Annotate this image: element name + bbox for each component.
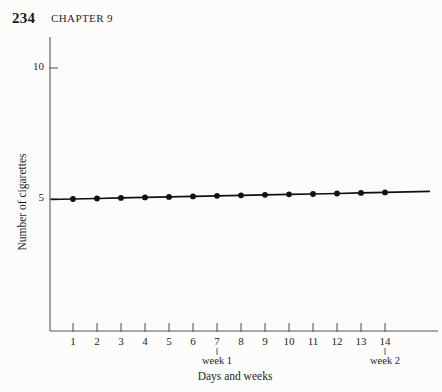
- chart-svg: [0, 0, 442, 392]
- week-annotation: week 2: [370, 355, 400, 366]
- x-tick-label: 11: [308, 335, 319, 347]
- x-tick-label: 7: [214, 335, 220, 347]
- week-tick-marks: [217, 348, 385, 355]
- x-tick-label: 10: [284, 335, 295, 347]
- chart-axes: [50, 37, 438, 331]
- data-point-marker: [358, 190, 364, 196]
- data-point-marker: [310, 191, 316, 197]
- chart-page: 234 CHAPTER 9 510 1234567891011121314 we…: [0, 0, 442, 392]
- x-tick-label: 3: [118, 335, 124, 347]
- data-point-marker: [70, 196, 76, 202]
- x-tick-label: 13: [356, 335, 367, 347]
- x-tick-label: 5: [166, 335, 172, 347]
- data-point-marker: [166, 194, 172, 200]
- data-point-marker: [94, 196, 100, 202]
- x-tick-label: 8: [238, 335, 244, 347]
- x-tick-label: 6: [190, 335, 196, 347]
- data-point-marker: [238, 192, 244, 198]
- data-point-marker: [118, 195, 124, 201]
- data-point-marker: [382, 190, 388, 196]
- x-tick-label: 1: [70, 335, 76, 347]
- data-point-marker: [262, 192, 268, 198]
- x-tick-label: 2: [94, 335, 100, 347]
- data-point-marker: [334, 191, 340, 197]
- data-point-marker: [286, 191, 292, 197]
- y-tick-label: 10: [12, 60, 44, 72]
- data-point-marker: [214, 193, 220, 199]
- week-annotation: week 1: [202, 355, 232, 366]
- data-point-marker: [190, 193, 196, 199]
- x-tick-label: 14: [380, 335, 391, 347]
- x-tick-label: 9: [262, 335, 268, 347]
- y-axis-title: Number of cigarettes: [16, 132, 28, 272]
- data-point-marker: [142, 195, 148, 201]
- line-chart: 510 1234567891011121314 week 1week 2 Day…: [0, 0, 442, 392]
- data-series-group: [51, 190, 430, 202]
- x-tick-label: 4: [142, 335, 148, 347]
- x-tick-label: 12: [332, 335, 343, 347]
- x-axis-title: Days and weeks: [198, 370, 273, 382]
